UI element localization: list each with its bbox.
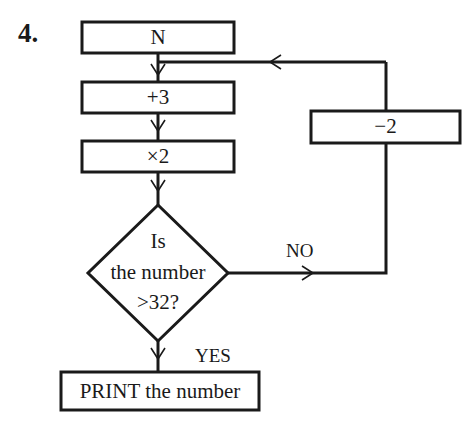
flowchart-diagram	[0, 0, 476, 430]
start-box-label: N	[82, 25, 234, 50]
print-box-label: PRINT the number	[61, 379, 259, 404]
subtract-two-label: −2	[311, 114, 460, 139]
multiply-two-label: ×2	[82, 144, 234, 169]
decision-line-3: >32?	[88, 290, 228, 315]
no-label: NO	[286, 240, 313, 262]
decision-line-2: the number	[88, 260, 228, 285]
decision-line-1: Is	[88, 229, 228, 254]
yes-label: YES	[195, 345, 231, 367]
add-three-label: +3	[82, 85, 234, 110]
